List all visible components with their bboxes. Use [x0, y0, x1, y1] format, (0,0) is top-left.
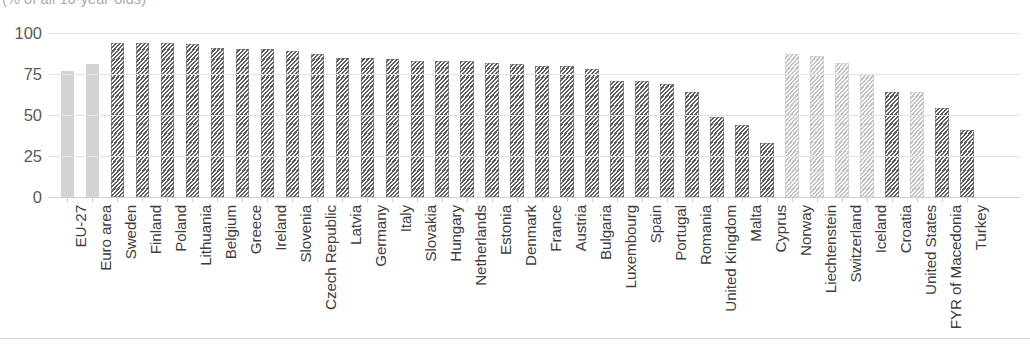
x-tick [767, 197, 768, 202]
x-axis-label-latvia: Latvia [348, 205, 363, 245]
x-tick [192, 197, 193, 202]
y-tick-label-25: 25 [0, 148, 42, 165]
bottom-divider [0, 338, 1030, 339]
x-tick [417, 197, 418, 202]
x-axis-label-france: France [548, 205, 563, 252]
bar-denmark [510, 64, 524, 197]
x-tick [617, 197, 618, 202]
x-axis-label-austria: Austria [573, 205, 588, 252]
x-axis-label-italy: Italy [398, 205, 413, 232]
bar-malta [735, 125, 749, 197]
x-tick [667, 197, 668, 202]
x-tick [442, 197, 443, 202]
bar-fyr-of-macedonia [935, 108, 949, 197]
bar-italy [386, 59, 400, 197]
x-tick [367, 197, 368, 202]
x-tick [817, 197, 818, 202]
x-tick [92, 197, 93, 202]
x-tick [892, 197, 893, 202]
x-tick [392, 197, 393, 202]
x-tick [492, 197, 493, 202]
x-axis-label-bulgaria: Bulgaria [598, 205, 613, 260]
x-tick [267, 197, 268, 202]
plot-area [48, 33, 1020, 197]
x-tick [117, 197, 118, 202]
bar-lithuania [186, 44, 200, 197]
x-axis-label-finland: Finland [148, 205, 163, 254]
x-tick [142, 197, 143, 202]
x-axis-label-croatia: Croatia [898, 205, 913, 253]
x-axis-label-sweden: Sweden [123, 205, 138, 259]
y-tick-label-75: 75 [0, 66, 42, 83]
y-tick-label-0: 0 [0, 189, 42, 206]
y-axis-labels: 0255075100 [0, 33, 42, 197]
bar-iceland [860, 74, 874, 197]
x-tick [242, 197, 243, 202]
bar-croatia [885, 92, 899, 197]
x-axis-label-estonia: Estonia [498, 205, 513, 255]
x-axis-label-germany: Germany [373, 205, 388, 267]
x-axis-label-liechtenstein: Liechtenstein [823, 205, 838, 293]
x-tick [842, 197, 843, 202]
bar-liechtenstein [810, 56, 824, 197]
bar-slovenia [286, 51, 300, 197]
x-tick [67, 197, 68, 202]
x-axis-label-netherlands: Netherlands [473, 205, 488, 286]
bar-switzerland [835, 63, 849, 197]
x-axis-label-euro-area: Euro area [98, 205, 113, 271]
bar-hungary [435, 61, 449, 197]
x-tick [292, 197, 293, 202]
x-tick [692, 197, 693, 202]
bar-united-states [910, 92, 924, 197]
gridline-25 [48, 156, 1020, 157]
bar-eu-27 [61, 71, 75, 197]
bar-euro-area [86, 64, 100, 197]
gridline-75 [48, 74, 1020, 75]
chart-subtitle: (% of all 16-year-olds) [2, 0, 146, 7]
x-tick [967, 197, 968, 202]
gridline-100 [48, 33, 1020, 34]
bar-chart: (% of all 16-year-olds) 0255075100 EU-27… [0, 0, 1030, 345]
x-tick [517, 197, 518, 202]
x-axis-label-hungary: Hungary [448, 205, 463, 262]
bar-finland [136, 43, 150, 197]
x-tick [167, 197, 168, 202]
bar-poland [161, 43, 175, 197]
x-axis-label-czech-republic: Czech Republic [323, 205, 338, 310]
x-axis-label-turkey: Turkey [973, 205, 988, 250]
bar-portugal [660, 84, 674, 197]
bar-latvia [336, 58, 350, 197]
bar-greece [236, 49, 250, 197]
bar-austria [560, 66, 574, 197]
x-axis-label-eu-27: EU-27 [73, 205, 88, 248]
bar-estonia [485, 63, 499, 197]
y-tick-label-100: 100 [0, 25, 42, 42]
x-axis-label-cyprus: Cyprus [773, 205, 788, 253]
x-tick [342, 197, 343, 202]
x-tick [867, 197, 868, 202]
bar-turkey [960, 130, 974, 197]
x-axis-label-spain: Spain [648, 205, 663, 243]
bar-belgium [211, 48, 225, 197]
x-axis: EU-27Euro areaSwedenFinlandPolandLithuan… [48, 197, 1020, 345]
bar-sweden [111, 43, 125, 197]
bar-france [535, 66, 549, 197]
x-axis-label-fyr-of-macedonia: FYR of Macedonia [948, 205, 963, 329]
x-axis-label-luxembourg: Luxembourg [623, 205, 638, 288]
y-tick-label-50: 50 [0, 107, 42, 124]
bar-norway [785, 54, 799, 197]
x-tick [592, 197, 593, 202]
x-axis-label-belgium: Belgium [223, 205, 238, 259]
bar-germany [361, 58, 375, 197]
bar-czech-republic [311, 54, 325, 197]
x-axis-label-norway: Norway [798, 205, 813, 256]
x-axis-label-poland: Poland [173, 205, 188, 252]
x-axis-label-slovakia: Slovakia [423, 205, 438, 262]
x-axis-label-malta: Malta [748, 205, 763, 242]
x-axis-label-united-states: United States [923, 205, 938, 295]
x-axis-label-denmark: Denmark [523, 205, 538, 266]
x-axis-label-ireland: Ireland [273, 205, 288, 251]
gridline-50 [48, 115, 1020, 116]
x-tick [642, 197, 643, 202]
x-axis-label-united-kingdom: United Kingdom [723, 205, 738, 312]
